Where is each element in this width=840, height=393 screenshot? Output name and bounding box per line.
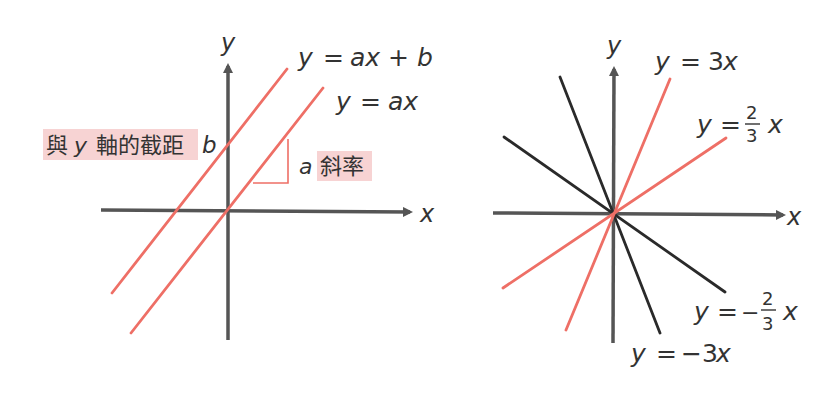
linear-function-diagram: y x y = ax + b y = ax 與 y 軸的截距 b — [0, 0, 840, 393]
right-x-axis — [493, 213, 783, 215]
label-var: x — [715, 339, 731, 368]
label-y-eq-neg-2-3x: y = − 2 3 x — [693, 288, 798, 334]
left-x-axis — [101, 210, 410, 212]
label-lhs: y — [630, 339, 647, 368]
right-x-axis-label: x — [786, 203, 802, 231]
left-y-axis-label: y — [220, 29, 236, 57]
intercept-var-b: b — [202, 132, 217, 158]
diagram-svg: y x y = ax + b y = ax 與 y 軸的截距 b — [0, 0, 840, 393]
right-y-axis-label: y — [606, 32, 622, 60]
label-eq: = — [360, 87, 381, 116]
left-x-axis-label: x — [419, 200, 435, 228]
label-lhs: y — [335, 87, 352, 116]
label-denominator: 3 — [762, 313, 773, 334]
slope-triangle — [253, 139, 288, 183]
label-rhs: ax — [388, 87, 418, 116]
left-graph: y x y = ax + b y = ax 與 y 軸的截距 b — [43, 29, 435, 340]
label-y-eq-2-3x: y = 2 3 x — [696, 102, 783, 146]
label-y-eq-3x: y = 3 x — [654, 47, 738, 76]
slope-var-a: a — [299, 154, 312, 179]
label-coef: −3 — [681, 339, 718, 368]
label-eq: = — [323, 43, 344, 72]
label-lhs: y — [693, 297, 710, 326]
label-lhs: y — [297, 43, 314, 72]
label-lhs: y — [654, 47, 671, 76]
slope-text: 斜率 — [320, 154, 364, 179]
intercept-text-post: 軸的截距 — [96, 133, 184, 158]
label-coef: 3 — [708, 47, 724, 76]
label-sign: − — [741, 300, 759, 325]
label-rhs: ax + b — [350, 43, 433, 72]
line-y-eq-ax-plus-b — [112, 69, 287, 293]
label-eq: = — [656, 339, 677, 368]
line-y-eq-3x — [566, 79, 670, 330]
label-y-eq-ax: y = ax — [335, 87, 418, 116]
slope-label: a 斜率 — [299, 154, 364, 179]
label-var: x — [782, 297, 798, 326]
label-var: x — [767, 110, 783, 139]
line-y-eq-neg-3x — [560, 77, 660, 333]
right-y-axis — [613, 69, 614, 343]
label-eq: = — [717, 297, 738, 326]
intercept-text-var: y — [73, 133, 88, 158]
intercept-text-pre: 與 — [46, 133, 68, 158]
label-y-eq-ax-plus-b: y = ax + b — [297, 43, 433, 72]
label-y-eq-neg-3x: y = −3 x — [630, 339, 731, 368]
label-numerator: 2 — [762, 288, 773, 309]
label-numerator: 2 — [746, 102, 757, 123]
label-var: x — [722, 47, 738, 76]
right-graph: y x y = 3 x y = 2 3 x y = − — [493, 32, 802, 368]
label-lhs: y — [696, 110, 713, 139]
label-denominator: 3 — [746, 125, 757, 146]
label-eq: = — [680, 47, 701, 76]
label-eq: = — [720, 110, 741, 139]
